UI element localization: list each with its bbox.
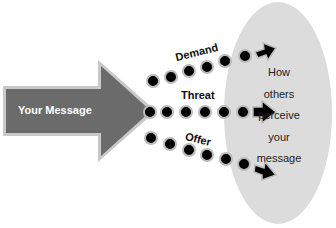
perception-line: perceive — [248, 105, 310, 127]
perception-line: others — [248, 84, 310, 106]
perception-text: How others perceive your message — [248, 62, 310, 170]
your-message-label: Your Message — [18, 104, 108, 116]
message-perception-diagram: Your Message Demand Threat Offer How oth… — [0, 0, 336, 228]
perception-line: message — [248, 148, 310, 170]
threat-label: Threat — [181, 89, 215, 101]
perception-line: How — [248, 62, 310, 84]
perception-line: your — [248, 127, 310, 149]
